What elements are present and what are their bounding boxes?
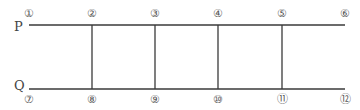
node-label-1: ① bbox=[24, 8, 34, 19]
rail-label-q: Q bbox=[14, 79, 25, 92]
node-label-8: ⑧ bbox=[87, 94, 97, 105]
node-label-4: ④ bbox=[213, 8, 223, 19]
node-label-3: ③ bbox=[150, 8, 160, 19]
node-label-7: ⑦ bbox=[24, 94, 34, 105]
node-label-2: ② bbox=[87, 8, 97, 19]
node-label-11: ⑪ bbox=[277, 94, 288, 105]
node-label-5: ⑤ bbox=[277, 8, 287, 19]
node-label-9: ⑨ bbox=[150, 94, 160, 105]
node-label-6: ⑥ bbox=[340, 8, 350, 19]
node-label-12: ⑫ bbox=[340, 94, 351, 105]
rail-label-p: P bbox=[14, 20, 23, 33]
node-label-10: ⑩ bbox=[213, 94, 223, 105]
ladder-diagram bbox=[0, 0, 360, 110]
